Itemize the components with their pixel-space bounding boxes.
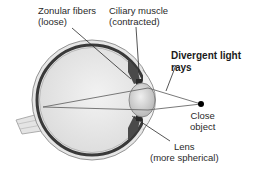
zonular-fibers-line1: Zonular fibers xyxy=(38,5,96,16)
close-object-line2: object xyxy=(190,121,215,132)
close-object-line1: Close xyxy=(190,110,215,121)
divergent-rays-line1: Divergent light xyxy=(171,50,241,62)
zonular-fibers-line2: (loose) xyxy=(38,16,96,27)
divergent-rays-line2: rays xyxy=(171,62,241,74)
label-divergent-rays: Divergent light rays xyxy=(171,50,241,74)
lens-line1: Lens xyxy=(150,141,219,152)
label-ciliary-muscle: Ciliary muscle (contracted) xyxy=(109,5,168,27)
lens xyxy=(129,83,155,117)
ciliary-muscle-line2: (contracted) xyxy=(109,16,168,27)
label-zonular-fibers: Zonular fibers (loose) xyxy=(38,5,96,27)
label-lens: Lens (more spherical) xyxy=(150,141,219,163)
close-object-dot xyxy=(198,101,204,107)
ciliary-muscle-line1: Ciliary muscle xyxy=(109,5,168,16)
lens-line2: (more spherical) xyxy=(150,152,219,163)
label-close-object: Close object xyxy=(190,110,215,132)
